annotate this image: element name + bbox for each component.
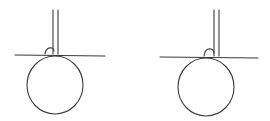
- figure-left: [15, 10, 105, 114]
- tangent-line-left: [15, 55, 105, 56]
- circle-left: [27, 56, 83, 114]
- figure-right: [160, 10, 258, 116]
- diagram-svg: [0, 0, 270, 121]
- circle-right: [178, 58, 234, 116]
- angle-arc-right: [204, 49, 214, 56]
- diagram-canvas: [0, 0, 270, 121]
